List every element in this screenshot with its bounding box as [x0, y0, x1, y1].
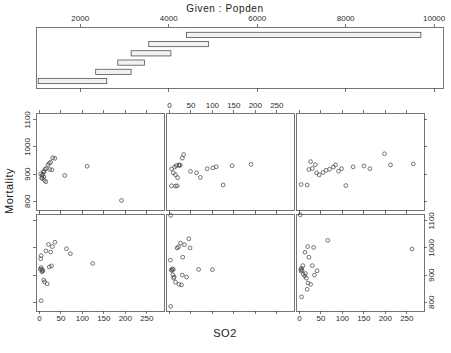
svg-text:0: 0 [37, 314, 42, 323]
svg-text:900: 900 [23, 167, 32, 181]
scatter-panel-bottom-left [38, 240, 94, 302]
scatter-panel-top-right [299, 152, 415, 188]
svg-text:10000: 10000 [423, 14, 446, 23]
svg-text:6000: 6000 [248, 14, 266, 23]
svg-text:800: 800 [23, 194, 32, 208]
scatter-panel-bottom-middle [168, 213, 214, 308]
svg-text:200: 200 [379, 314, 393, 323]
svg-text:8000: 8000 [337, 14, 355, 23]
svg-text:150: 150 [227, 101, 241, 110]
svg-text:200: 200 [249, 101, 263, 110]
svg-text:50: 50 [316, 314, 325, 323]
svg-text:2000: 2000 [71, 14, 89, 23]
svg-text:100: 100 [206, 101, 220, 110]
svg-text:1100: 1100 [427, 212, 436, 230]
scatter-panel-top-middle [170, 153, 253, 188]
svg-text:200: 200 [119, 314, 133, 323]
svg-text:100: 100 [76, 314, 90, 323]
svg-text:150: 150 [97, 314, 111, 323]
svg-text:0: 0 [167, 101, 172, 110]
svg-text:250: 250 [140, 314, 154, 323]
svg-text:150: 150 [357, 314, 371, 323]
svg-text:0: 0 [297, 314, 302, 323]
svg-text:4000: 4000 [160, 14, 178, 23]
svg-text:50: 50 [56, 314, 65, 323]
svg-text:100: 100 [336, 314, 350, 323]
scatter-panel-top-left [39, 156, 124, 202]
svg-text:1000: 1000 [427, 239, 436, 257]
svg-text:50: 50 [186, 101, 195, 110]
svg-text:1000: 1000 [23, 138, 32, 156]
svg-text:1100: 1100 [23, 111, 32, 129]
svg-text:250: 250 [400, 314, 414, 323]
coplot-figure: 2000400060008000100000501001502002500501… [0, 0, 451, 353]
scatter-panel-bottom-right [298, 213, 413, 299]
svg-text:250: 250 [270, 101, 284, 110]
svg-text:800: 800 [427, 295, 436, 309]
svg-text:900: 900 [427, 268, 436, 282]
